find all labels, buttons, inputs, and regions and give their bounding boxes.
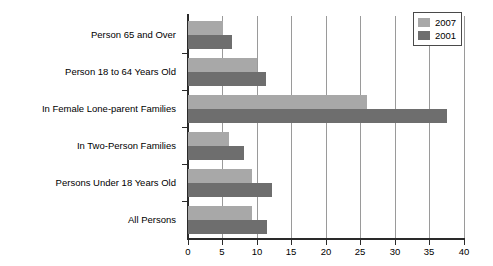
category-label: Person 18 to 64 Years Old — [65, 53, 176, 90]
category-label: In Two-Person Families — [77, 127, 176, 164]
legend-entry-2001: 2001 — [418, 29, 456, 42]
gridline — [464, 16, 465, 238]
light-gray-swatch-icon — [418, 18, 430, 27]
category-label: All Persons — [128, 201, 176, 238]
x-axis-tick-label: 35 — [414, 246, 444, 257]
x-axis-tick — [429, 240, 430, 245]
bar-2007 — [188, 58, 257, 72]
x-axis-tick — [326, 240, 327, 245]
gridline — [360, 16, 361, 238]
x-axis-tick — [257, 240, 258, 245]
legend-label: 2001 — [435, 29, 456, 42]
category-label: Persons Under 18 Years Old — [56, 164, 176, 201]
bar-2001 — [188, 109, 447, 123]
x-axis-tick-label: 15 — [276, 246, 306, 257]
bar-chart: Person 65 and Over Person 18 to 64 Years… — [0, 0, 493, 266]
category-label: In Female Lone-parent Families — [42, 90, 176, 127]
x-axis-tick-label: 30 — [380, 246, 410, 257]
x-axis-tick — [222, 240, 223, 245]
bar-2007 — [188, 206, 252, 220]
x-axis-tick-label: 20 — [311, 246, 341, 257]
bar-2001 — [188, 220, 267, 234]
gridline — [326, 16, 327, 238]
bar-2007 — [188, 169, 252, 183]
category-label: Person 65 and Over — [91, 16, 176, 53]
legend-label: 2007 — [435, 16, 456, 29]
category-axis-labels: Person 65 and Over Person 18 to 64 Years… — [0, 16, 182, 238]
gridline — [222, 16, 223, 238]
gridline — [257, 16, 258, 238]
bar-2007 — [188, 95, 367, 109]
x-axis-tick — [360, 240, 361, 245]
dark-gray-swatch-icon — [418, 31, 430, 40]
x-axis-tick — [291, 240, 292, 245]
x-axis-tick-label: 10 — [242, 246, 272, 257]
x-axis-tick — [464, 240, 465, 245]
legend-entry-2007: 2007 — [418, 16, 456, 29]
bar-2001 — [188, 183, 272, 197]
gridline — [429, 16, 430, 238]
bar-2001 — [188, 72, 266, 86]
bar-2007 — [188, 21, 223, 35]
gridline — [395, 16, 396, 238]
bar-2001 — [188, 35, 232, 49]
x-axis-tick-label: 5 — [207, 246, 237, 257]
chart-legend: 2007 2001 — [413, 12, 462, 46]
bar-2001 — [188, 146, 244, 160]
x-axis-tick-label: 25 — [345, 246, 375, 257]
x-axis-tick — [395, 240, 396, 245]
x-axis-tick — [188, 240, 189, 245]
gridline — [291, 16, 292, 238]
plot-area — [188, 16, 464, 238]
x-axis-tick-label: 40 — [449, 246, 479, 257]
x-axis-tick-label: 0 — [173, 246, 203, 257]
bar-2007 — [188, 132, 229, 146]
